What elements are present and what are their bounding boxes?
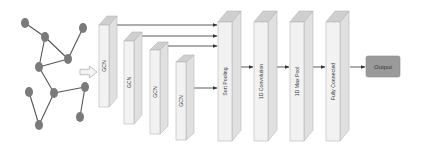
block-label: 1D Convolution (258, 64, 264, 100)
graph-node (64, 54, 72, 64)
graph-node (21, 18, 29, 28)
graph-node (25, 87, 33, 97)
graph-node (76, 112, 84, 122)
graph-edge (68, 28, 83, 59)
block-gcn4: GCN (176, 55, 194, 140)
block-side (186, 55, 194, 140)
graph-edge (39, 93, 54, 125)
block-gcn2: GCN (124, 32, 142, 124)
block-side (232, 11, 241, 141)
block-label: Fully Connected (330, 63, 336, 101)
graph-node (35, 62, 43, 72)
input-graph-edges (25, 23, 85, 125)
graph-node (79, 23, 87, 33)
architecture-diagram: GCNGCNGCNGCNSort Pooling1D Convolution1D… (0, 0, 422, 150)
block-label: GCN (126, 76, 132, 88)
block-side (134, 32, 142, 124)
hollow-arrow-icon (80, 66, 97, 78)
block-side (109, 16, 117, 107)
layer-blocks: GCNGCNGCNGCNSort Pooling1D Convolution1D… (99, 11, 349, 141)
block-label: 1D Max Pool (294, 67, 300, 97)
block-maxpool1d: 1D Max Pool (290, 11, 313, 141)
graph-edge (39, 59, 68, 67)
output-label: Output (374, 64, 392, 70)
block-label: GCN (101, 60, 107, 72)
block-sort-pooling: Sort Pooling (218, 11, 241, 141)
block-fully-connected: Fully Connected (326, 11, 349, 141)
graph-edge (29, 92, 39, 125)
block-conv1d: 1D Convolution (254, 11, 277, 141)
input-arrow-icon (80, 66, 97, 78)
graph-edge (54, 87, 85, 93)
block-side (268, 11, 277, 141)
graph-node (81, 82, 89, 92)
block-gcn1: GCN (99, 16, 117, 107)
block-gcn3: GCN (150, 42, 168, 134)
block-label: GCN (178, 95, 184, 107)
block-side (304, 11, 313, 141)
block-label: Sort Pooling (222, 67, 228, 95)
graph-node (41, 32, 49, 42)
graph-node (35, 120, 43, 130)
block-label: GCN (152, 86, 158, 98)
block-side (160, 42, 168, 134)
output-box: Output (366, 56, 400, 77)
graph-node (50, 88, 58, 98)
graph-edge (45, 37, 68, 59)
input-graph-nodes (21, 18, 89, 130)
block-side (340, 11, 349, 141)
